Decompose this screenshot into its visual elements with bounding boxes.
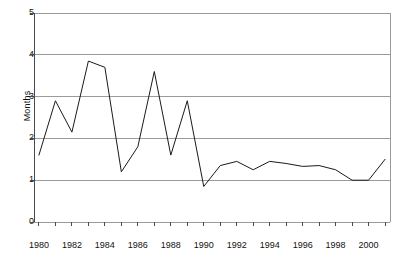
plot-area <box>0 0 413 262</box>
data-series-line <box>39 61 385 186</box>
line-chart: Months 012345 19801982198419861988199019… <box>0 0 413 262</box>
